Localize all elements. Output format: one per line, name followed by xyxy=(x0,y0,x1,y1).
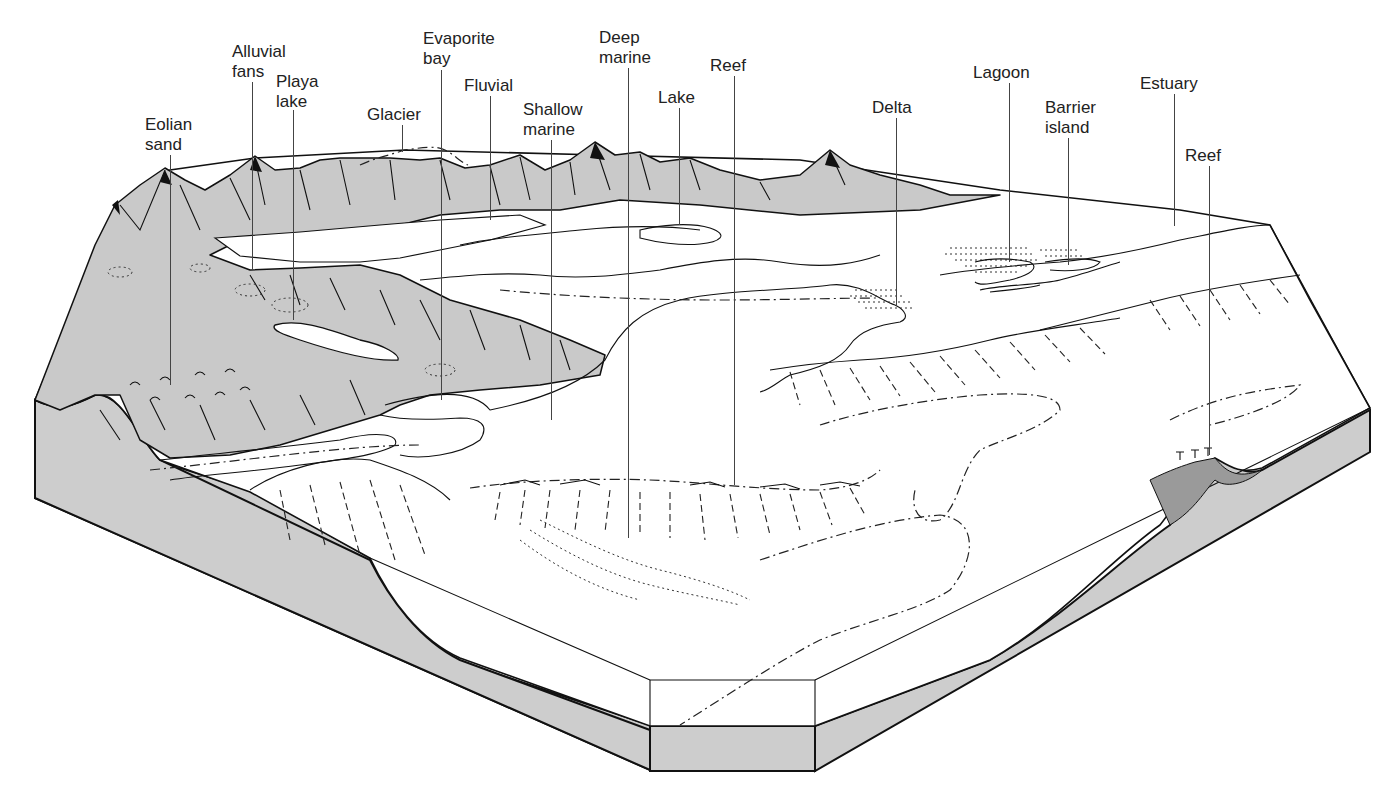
label-glacier: Glacier xyxy=(367,105,421,125)
lagoon-leader-line xyxy=(1009,83,1010,262)
label-delta: Delta xyxy=(872,98,912,118)
label-reef-1: Reef xyxy=(710,56,746,76)
eolian-sand-leader-line xyxy=(170,155,171,385)
label-playa-lake: Playa lake xyxy=(276,72,319,112)
label-fluvial: Fluvial xyxy=(464,76,513,96)
playa-lake-leader-line xyxy=(293,110,294,320)
evaporite-bay-leader-line xyxy=(441,70,442,400)
depositional-environments-block-diagram xyxy=(0,0,1400,796)
label-lagoon: Lagoon xyxy=(973,63,1030,83)
estuary-leader-line xyxy=(1174,94,1175,226)
label-lake: Lake xyxy=(658,88,695,108)
reef-2-leader-line xyxy=(1209,166,1210,455)
label-shallow-marine: Shallow marine xyxy=(523,100,583,140)
label-eolian-sand: Eolian sand xyxy=(145,115,192,155)
delta-leader-line xyxy=(896,118,897,305)
label-estuary: Estuary xyxy=(1140,74,1198,94)
glacier-leader-line xyxy=(402,125,403,152)
label-barrier-island: Barrier island xyxy=(1045,98,1096,138)
label-deep-marine: Deep marine xyxy=(599,28,651,68)
deep-marine-leader-line xyxy=(628,68,629,538)
label-evaporite-bay: Evaporite bay xyxy=(423,29,495,69)
fluvial-leader-line xyxy=(490,96,491,220)
reef-1-leader-line xyxy=(734,76,735,485)
shallow-marine-leader-line xyxy=(551,140,552,420)
lake-leader-line xyxy=(679,108,680,225)
alluvial-fans-leader-line xyxy=(252,82,253,270)
barrier-island-leader-line xyxy=(1068,138,1069,265)
label-reef-2: Reef xyxy=(1185,146,1221,166)
